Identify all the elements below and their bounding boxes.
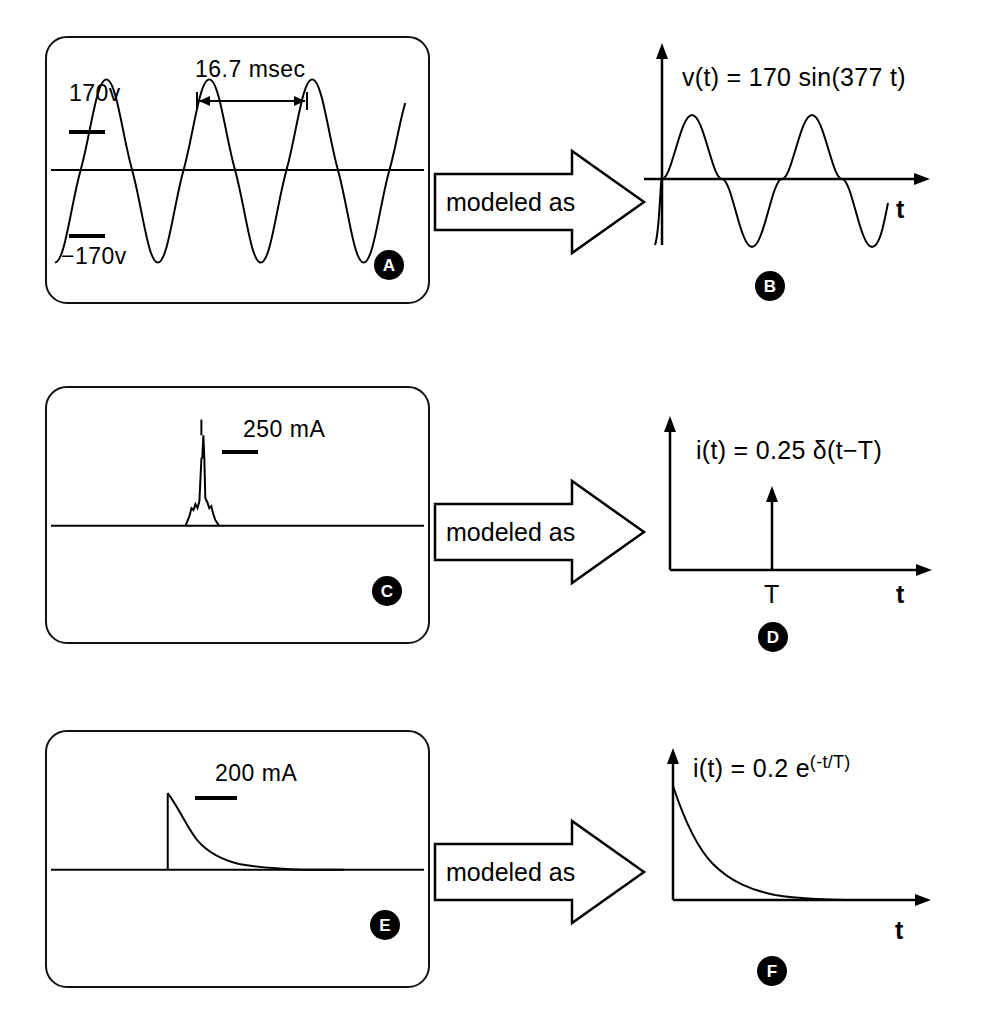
scope-panel-e: 200 mA E bbox=[45, 730, 430, 988]
scope-panel-c: 250 mA C bbox=[45, 386, 430, 644]
equation-f: i(t) = 0.2 e(-t/T) bbox=[693, 754, 851, 783]
amplitude-tick-upper bbox=[69, 130, 105, 134]
panel-badge-a: A bbox=[374, 250, 404, 280]
modeled-as-arrow-2: modeled as bbox=[432, 478, 647, 586]
scope-label-amplitude-250ma: 250 mA bbox=[243, 416, 325, 443]
x-axis-label-b: t bbox=[896, 195, 904, 224]
panel-badge-d: D bbox=[758, 622, 788, 652]
scope-label-upper-amplitude: 170v bbox=[69, 80, 121, 107]
panel-badge-f: F bbox=[757, 956, 787, 986]
model-graph-f: i(t) = 0.2 e(-t/T) t F bbox=[645, 740, 975, 1010]
amplitude-tick-lower bbox=[69, 234, 105, 238]
modeled-as-label: modeled as bbox=[446, 858, 575, 887]
panel-badge-c: C bbox=[372, 576, 402, 606]
scope-label-lower-amplitude: −170v bbox=[61, 243, 127, 270]
panel-badge-b: B bbox=[755, 271, 785, 301]
equation-f-exponent: (-t/T) bbox=[810, 752, 851, 772]
period-dimension-arrow bbox=[192, 90, 312, 112]
modeled-as-label: modeled as bbox=[446, 188, 575, 217]
modeled-as-label: modeled as bbox=[446, 518, 575, 547]
x-axis-tick-T: T bbox=[764, 580, 779, 609]
amplitude-tick-250ma bbox=[222, 450, 258, 454]
modeled-as-arrow-3: modeled as bbox=[432, 818, 647, 926]
scope-panel-a: 170v −170v 16.7 msec A bbox=[45, 36, 430, 304]
x-axis-label-d: t bbox=[896, 580, 904, 609]
figure-row-exponential: 200 mA E modeled as i(t) = 0.2 e(-t/T) t… bbox=[0, 700, 981, 1010]
equation-b: v(t) = 170 sin(377 t) bbox=[682, 63, 906, 92]
scope-label-period: 16.7 msec bbox=[195, 56, 306, 83]
equation-d: i(t) = 0.25 δ(t−T) bbox=[696, 436, 882, 465]
x-axis-label-f: t bbox=[895, 916, 903, 945]
figure-row-impulse: 250 mA C modeled as i(t) = 0.25 δ(t−T) T… bbox=[0, 378, 981, 688]
figure-row-sine: 170v −170v 16.7 msec A modeled as v(t) =… bbox=[0, 18, 981, 328]
model-graph-b: v(t) = 170 sin(377 t) t B bbox=[630, 33, 960, 303]
scope-trace-impulse bbox=[47, 388, 428, 642]
equation-f-base: i(t) = 0.2 e bbox=[693, 754, 810, 782]
model-graph-d: i(t) = 0.25 δ(t−T) T t D bbox=[640, 400, 970, 670]
panel-badge-e: E bbox=[370, 910, 400, 940]
amplitude-tick-200ma bbox=[195, 796, 237, 800]
modeled-as-arrow-1: modeled as bbox=[432, 148, 647, 256]
scope-label-amplitude-200ma: 200 mA bbox=[215, 760, 297, 787]
